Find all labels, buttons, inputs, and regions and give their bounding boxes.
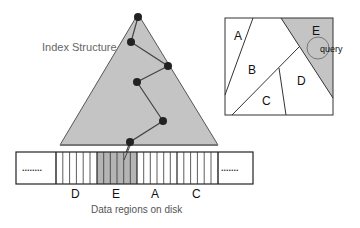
left-ellipsis: ........	[22, 163, 42, 173]
disk-label-d: D	[71, 187, 80, 201]
tree-node-icon	[134, 13, 142, 21]
right-ellipsis: .......	[221, 163, 239, 173]
tree-node-icon	[127, 38, 135, 46]
tree-node-icon	[126, 138, 134, 146]
region-label-a: A	[234, 29, 242, 43]
disk-label-e: E	[112, 187, 120, 201]
query-label: query	[320, 44, 343, 54]
region-label-c: C	[262, 94, 271, 108]
disk-caption: Data regions on disk	[91, 204, 183, 215]
diagram-canvas: Index Structure ........ ....... D E A C…	[0, 0, 360, 228]
region-label-e: E	[312, 24, 320, 38]
tree-node-icon	[164, 62, 172, 70]
tree-node-icon	[133, 78, 141, 86]
disk-label-a: A	[151, 187, 159, 201]
disk-bar	[16, 146, 253, 184]
tree-node-icon	[159, 117, 167, 125]
index-structure-label: Index Structure	[42, 41, 117, 53]
region-label-b: B	[248, 63, 256, 77]
disk-label-c: C	[192, 187, 201, 201]
region-label-d: D	[297, 74, 306, 88]
